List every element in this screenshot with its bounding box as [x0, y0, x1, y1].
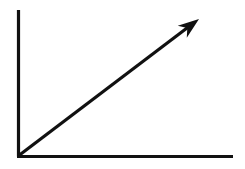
- growth-arrow-chart: [0, 0, 245, 169]
- chart-figure: Simple growth chart with an arrow pointi…: [0, 0, 245, 169]
